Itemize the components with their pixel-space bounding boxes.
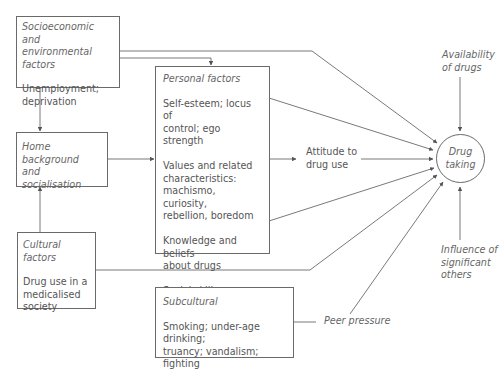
- personal-item-text: Values and related: [163, 160, 262, 173]
- personal-item-text: about drugs: [163, 260, 262, 273]
- subcultural-body-line1: Smoking; under-age drinking;: [163, 321, 286, 346]
- edge-personal-lower-drug: [269, 168, 434, 221]
- home-title-line3: socialisation: [22, 179, 102, 192]
- influence-line1: Influence of: [441, 244, 498, 257]
- drug-taking-node: Drug taking: [436, 134, 485, 183]
- availability-of-drugs-label: Availability of drugs: [442, 49, 495, 74]
- influence-line3: others: [441, 269, 498, 282]
- drug-taking-line2: taking: [445, 159, 475, 172]
- personal-item-values: Values and related characteristics: mach…: [163, 160, 262, 223]
- attitude-line2: drug use: [306, 159, 357, 172]
- subcultural-body: Smoking; under-age drinking; truancy; va…: [163, 321, 286, 371]
- socioeconomic-body: Unemployment; deprivation: [22, 83, 114, 108]
- socioeconomic-title-line1: Socioeconomic and: [22, 21, 114, 46]
- influence-of-significant-others-label: Influence of significant others: [441, 244, 498, 282]
- subcultural-title: Subcultural: [163, 296, 286, 309]
- personal-item-knowledge: Knowledge and beliefs about drugs: [163, 235, 262, 273]
- personal-item-text: characteristics:: [163, 173, 262, 186]
- edge-peer-drug: [350, 182, 443, 314]
- cultural-body: Drug use in a medicalised society: [23, 276, 90, 314]
- socioeconomic-body-line2: deprivation: [22, 96, 114, 109]
- attitude-line1: Attitude to: [306, 146, 357, 159]
- cultural-body-line2: medicalised: [23, 289, 90, 302]
- socioeconomic-factors-box: Socioeconomic and environmental factors …: [16, 16, 120, 88]
- personal-item-text: Knowledge and beliefs: [163, 235, 262, 260]
- socioeconomic-title-line2: environmental factors: [22, 46, 114, 71]
- peer-pressure-label: Peer pressure: [324, 315, 390, 328]
- cultural-title: Cultural factors: [23, 239, 90, 264]
- cultural-factors-box: Cultural factors Drug use in a medicalis…: [17, 232, 96, 309]
- influence-line2: significant: [441, 257, 498, 270]
- cultural-body-line3: society: [23, 301, 90, 314]
- availability-line1: Availability: [442, 49, 495, 62]
- subcultural-body-line2: truancy; vandalism; fighting: [163, 346, 286, 371]
- socioeconomic-body-line1: Unemployment;: [22, 83, 114, 96]
- personal-item-text: Self-esteem; locus of: [163, 98, 262, 123]
- socioeconomic-title: Socioeconomic and environmental factors: [22, 21, 114, 71]
- personal-factors-box: Personal factors Self-esteem; locus of c…: [155, 66, 270, 254]
- personal-item-self-esteem: Self-esteem; locus of control; ego stren…: [163, 98, 262, 148]
- edge-personal-upper-drug: [269, 98, 433, 150]
- attitude-to-drug-use-label: Attitude to drug use: [306, 146, 357, 171]
- availability-line2: of drugs: [442, 62, 495, 75]
- home-background-box: Home background and socialisation: [16, 132, 108, 187]
- drug-taking-text: Drug taking: [445, 146, 475, 171]
- edge-socioeconomic-personal: [119, 58, 211, 65]
- home-title-line1: Home background: [22, 141, 102, 166]
- personal-title: Personal factors: [163, 73, 262, 86]
- personal-item-text: control; ego strength: [163, 123, 262, 148]
- home-title: Home background and socialisation: [22, 141, 102, 191]
- personal-item-text: machismo, curiosity,: [163, 185, 262, 210]
- cultural-body-line1: Drug use in a: [23, 276, 90, 289]
- subcultural-box: Subcultural Smoking; under-age drinking;…: [155, 287, 294, 358]
- drug-taking-line1: Drug: [445, 146, 475, 159]
- personal-item-text: rebellion, boredom: [163, 210, 262, 223]
- home-title-line2: and: [22, 166, 102, 179]
